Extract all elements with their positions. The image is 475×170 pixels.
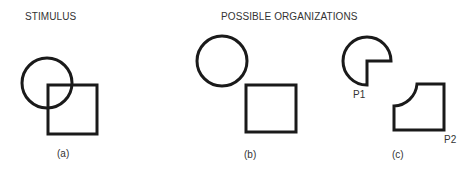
panel-c-figure: [343, 37, 444, 130]
p2-label: P2: [444, 135, 456, 145]
diagram-canvas: [0, 0, 475, 170]
panel-c-label: (c): [392, 150, 404, 160]
stimulus-square: [48, 85, 97, 134]
p1-notched-circle: [343, 37, 391, 85]
organization-b-circle: [197, 36, 247, 86]
panel-b-figure: [197, 36, 296, 132]
panel-b-label: (b): [244, 150, 256, 160]
p2-cut-square: [394, 84, 444, 130]
panel-a-figure: [22, 58, 97, 134]
organization-b-square: [246, 85, 296, 132]
p1-label: P1: [353, 90, 365, 100]
panel-a-label: (a): [57, 149, 69, 159]
